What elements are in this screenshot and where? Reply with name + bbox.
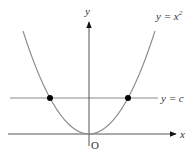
- parabola-diagram: y x O y = x2 y = c: [0, 0, 195, 153]
- intersection-point-right: [125, 95, 131, 101]
- x-axis-label: x: [179, 128, 185, 140]
- origin-label: O: [91, 139, 99, 151]
- curve-label: y = x2: [155, 9, 183, 22]
- curve-label-text: y = x: [155, 10, 179, 22]
- curve-label-exponent: 2: [179, 9, 183, 17]
- intersection-point-left: [47, 95, 53, 101]
- y-axis-label: y: [84, 5, 90, 17]
- line-label: y = c: [160, 92, 184, 104]
